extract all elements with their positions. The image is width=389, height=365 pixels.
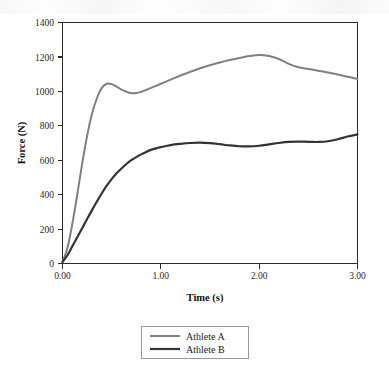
data-series-group [63, 55, 358, 262]
y-axis-tick-labels: 1400 1200 1000 800 600 400 200 0 [35, 18, 54, 269]
y-tick-label: 1200 [35, 53, 54, 63]
x-tick-label: 3.00 [349, 271, 366, 281]
series-line-athlete-b [63, 134, 358, 262]
x-axis-title: Time (s) [187, 292, 224, 304]
y-axis-ticks [58, 23, 63, 264]
x-tick-label: 1.00 [152, 271, 169, 281]
y-tick-label: 1400 [35, 18, 54, 28]
x-tick-label: 2.00 [251, 271, 268, 281]
chart-legend[interactable]: Athlete A Athlete B [142, 327, 249, 359]
x-tick-label: 0.00 [54, 271, 71, 281]
y-tick-label: 200 [40, 225, 55, 235]
x-axis-ticks [63, 264, 358, 269]
y-tick-label: 600 [40, 156, 55, 166]
y-tick-label: 800 [40, 121, 55, 131]
y-tick-label: 0 [49, 259, 54, 269]
legend-label-athlete-b[interactable]: Athlete B [186, 344, 225, 355]
legend-label-athlete-a[interactable]: Athlete A [186, 331, 225, 342]
force-time-chart-figure: 1400 1200 1000 800 600 400 200 0 0.00 1.… [0, 0, 389, 365]
chart-canvas: 1400 1200 1000 800 600 400 200 0 0.00 1.… [0, 0, 389, 365]
y-axis-title: Force (N) [16, 121, 28, 164]
y-tick-label: 1000 [35, 87, 54, 97]
x-axis-tick-labels: 0.00 1.00 2.00 3.00 [54, 271, 366, 281]
series-line-athlete-a [63, 55, 358, 262]
y-tick-label: 400 [40, 190, 55, 200]
